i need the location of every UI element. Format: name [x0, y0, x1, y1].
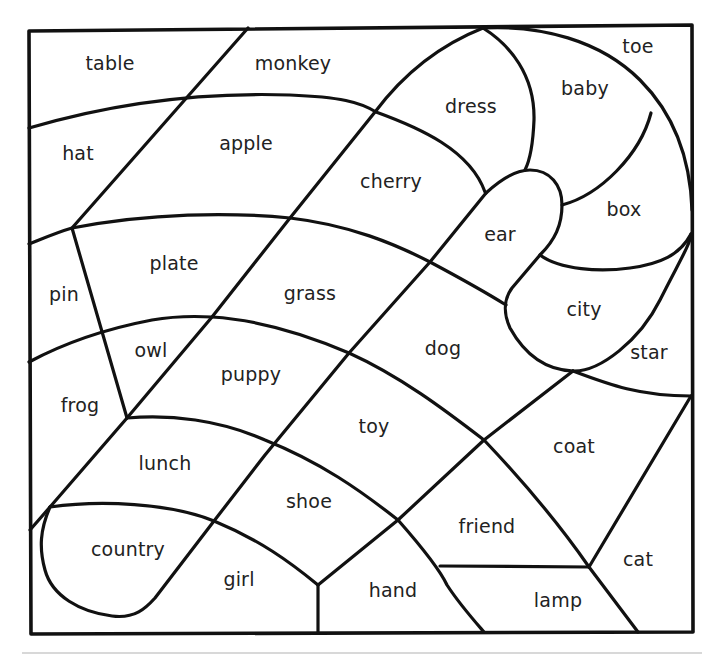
line-baby-box [562, 113, 651, 205]
region-label-puppy: puppy [221, 363, 281, 385]
arc-star-bottom [573, 371, 691, 396]
line-coat-cat [589, 396, 691, 567]
region-label-ear: ear [484, 223, 516, 245]
page-bottom-rule [22, 652, 702, 654]
region-label-shoe: shoe [286, 490, 332, 512]
region-label-pin: pin [49, 283, 79, 305]
region-label-friend: friend [459, 515, 516, 537]
region-label-monkey: monkey [255, 52, 332, 74]
region-label-star: star [630, 341, 668, 363]
region-label-city: city [566, 298, 601, 320]
region-label-cherry: cherry [360, 170, 422, 192]
region-label-baby: baby [561, 77, 609, 99]
region-label-dress: dress [445, 95, 497, 117]
region-label-girl: girl [223, 568, 254, 590]
region-label-grass: grass [284, 282, 336, 304]
region-label-table: table [85, 52, 134, 74]
region-label-toy: toy [359, 415, 390, 437]
region-label-owl: owl [134, 339, 167, 361]
region-label-lunch: lunch [139, 452, 192, 474]
region-label-lamp: lamp [534, 589, 582, 611]
region-label-cat: cat [623, 548, 653, 570]
region-label-country: country [91, 538, 165, 560]
region-label-toe: toe [622, 35, 653, 57]
region-label-plate: plate [149, 252, 198, 274]
arc-lunch-top [127, 417, 484, 632]
region-label-frog: frog [61, 394, 100, 416]
line-box-city [540, 234, 691, 270]
region-label-coat: coat [553, 435, 595, 457]
region-label-dog: dog [425, 337, 461, 359]
region-label-apple: apple [219, 132, 273, 154]
arc-plate-top [29, 215, 506, 305]
line-friend-lamp [440, 566, 589, 567]
region-label-hat: hat [62, 142, 94, 164]
region-label-box: box [607, 198, 642, 220]
region-label-hand: hand [369, 579, 418, 601]
line-lamp-cat [589, 567, 638, 632]
line-shoe-hand [318, 371, 573, 585]
